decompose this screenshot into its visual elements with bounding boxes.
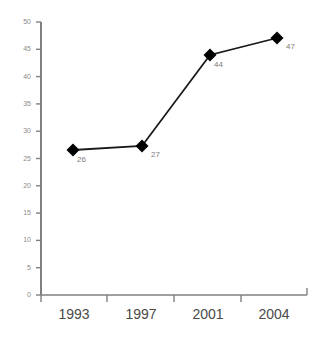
data-point-label-2001: 44	[214, 60, 223, 69]
x-tick-label-2001: 2001	[175, 306, 241, 322]
y-tick-label-20: 20	[9, 182, 31, 190]
x-tick-label-1993: 1993	[41, 306, 107, 322]
data-point-label-1997: 27	[151, 150, 160, 159]
data-line	[73, 38, 277, 150]
data-point-label-1993: 26	[77, 155, 86, 164]
data-point-label-2004: 47	[286, 42, 295, 51]
y-tick-label-5: 5	[9, 264, 31, 272]
y-tick-label-40: 40	[9, 73, 31, 81]
y-tick-label-0: 0	[9, 291, 31, 299]
x-tick-label-2004: 2004	[241, 306, 307, 322]
y-tick-label-15: 15	[9, 209, 31, 217]
y-tick-label-30: 30	[9, 127, 31, 135]
chart-canvas	[0, 0, 327, 339]
data-point-marker	[136, 140, 149, 153]
x-tick-label-1997: 1997	[108, 306, 174, 322]
data-point-marker	[271, 32, 284, 45]
data-markers	[67, 32, 284, 157]
y-tick-label-10: 10	[9, 236, 31, 244]
y-tick-label-50: 50	[9, 18, 31, 26]
y-tick-label-25: 25	[9, 155, 31, 163]
y-tick-label-35: 35	[9, 100, 31, 108]
y-tick-label-45: 45	[9, 45, 31, 53]
line-chart: 0 5 10 15 20 25 30 35 40 45 50 1993 1997…	[0, 0, 327, 339]
